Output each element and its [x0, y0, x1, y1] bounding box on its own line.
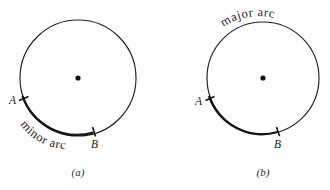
- point-label-b-panel-b: B: [274, 138, 281, 150]
- caption-panel-b: (b): [257, 166, 270, 179]
- geometry-figure-container: A B minor arc (a) A B major arc (b): [0, 0, 330, 190]
- point-label-a-panel-a: A: [8, 94, 17, 106]
- panel-b: A B major arc (b): [194, 5, 319, 179]
- center-point-a: [75, 75, 80, 80]
- major-arc-label-text: major arc: [218, 5, 277, 29]
- point-label-a-panel-b: A: [194, 95, 203, 107]
- point-label-b-panel-a: B: [91, 138, 98, 150]
- caption-panel-a: (a): [72, 166, 85, 179]
- major-arc-label: major arc: [218, 5, 277, 29]
- panel-a: A B minor arc (a): [8, 20, 136, 179]
- center-point-b: [260, 75, 265, 80]
- minor-arc-highlight-b: [209, 96, 278, 134]
- arcs-diagram-svg: A B minor arc (a) A B major arc (b): [0, 0, 330, 190]
